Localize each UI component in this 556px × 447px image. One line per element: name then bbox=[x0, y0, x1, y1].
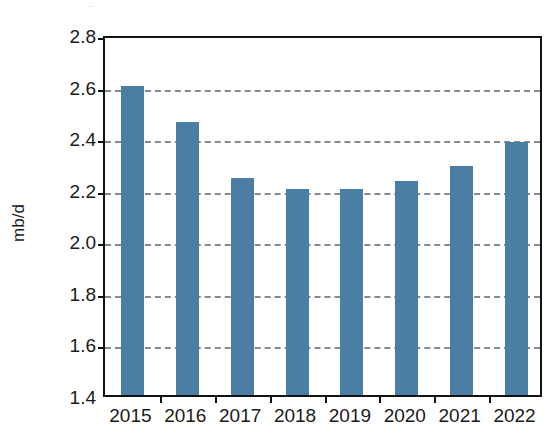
y-axis-tick-label: 2.8 bbox=[40, 27, 96, 46]
y-axis-tickmark bbox=[98, 296, 105, 298]
x-axis-tickmark bbox=[379, 395, 381, 403]
x-axis-tickmark bbox=[270, 395, 272, 403]
y-axis-tickmark bbox=[98, 90, 105, 92]
bar bbox=[231, 178, 254, 395]
y-axis-tick-label: 2.6 bbox=[40, 78, 96, 97]
bars-group bbox=[105, 38, 540, 395]
x-axis-tick-labels: 20152016201720182019202020212022 bbox=[103, 404, 542, 434]
y-axis-tickmark bbox=[98, 38, 105, 40]
y-axis-tickmark bbox=[98, 193, 105, 195]
bar bbox=[395, 181, 418, 395]
x-axis-tick-label: 2017 bbox=[219, 404, 261, 428]
y-axis-tickmark bbox=[98, 347, 105, 349]
x-axis-tickmark bbox=[160, 395, 162, 403]
y-axis-tick-labels: 1.41.61.82.02.22.42.62.8 bbox=[40, 36, 96, 397]
x-axis-tick-label: 2018 bbox=[274, 404, 316, 428]
plot-area bbox=[103, 36, 542, 397]
bar bbox=[340, 189, 363, 395]
bar bbox=[121, 86, 144, 395]
y-axis-tick-label: 2.4 bbox=[40, 130, 96, 149]
y-axis-tick-label: 1.6 bbox=[40, 336, 96, 355]
x-axis-tickmark bbox=[434, 395, 436, 403]
x-axis-tickmark bbox=[325, 395, 327, 403]
x-axis-tickmark bbox=[215, 395, 217, 403]
y-axis-tickmark bbox=[98, 244, 105, 246]
bar bbox=[505, 142, 528, 395]
chart-title-remnant: ▬ ▪ bbox=[0, 0, 556, 7]
x-axis-tickmark bbox=[489, 395, 491, 403]
y-axis-tick-label: 2.2 bbox=[40, 181, 96, 200]
bar bbox=[450, 166, 473, 395]
x-axis-tick-label: 2015 bbox=[109, 404, 151, 428]
x-axis-tick-label: 2019 bbox=[329, 404, 371, 428]
bar bbox=[176, 122, 199, 395]
x-axis-tick-label: 2021 bbox=[439, 404, 481, 428]
bar-chart-figure: ▬ ▪ mb/d 1.41.61.82.02.22.42.62.8 201520… bbox=[0, 0, 556, 447]
y-axis-tick-label: 1.4 bbox=[40, 388, 96, 407]
y-axis-tick-label: 1.8 bbox=[40, 284, 96, 303]
y-axis-tickmark bbox=[98, 141, 105, 143]
x-axis-tick-label: 2020 bbox=[384, 404, 426, 428]
y-axis-tick-label: 2.0 bbox=[40, 233, 96, 252]
x-axis-tick-label: 2016 bbox=[164, 404, 206, 428]
bar bbox=[286, 189, 309, 395]
x-axis-tick-label: 2022 bbox=[493, 404, 535, 428]
